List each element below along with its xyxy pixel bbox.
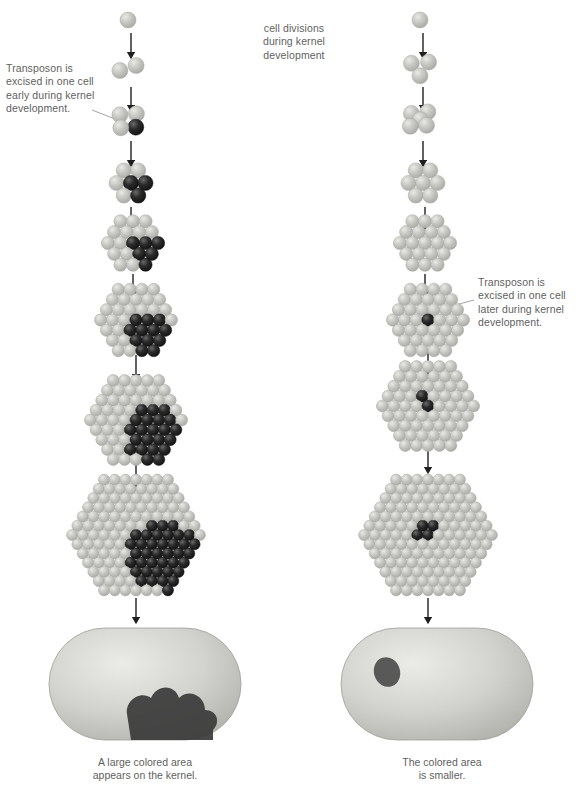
cell-cluster-stage-5 [101, 215, 164, 272]
annotation-right-transposon-late: Transposon is excised in one cell later … [478, 276, 588, 330]
cell-cluster-stage-7 [84, 375, 187, 466]
kernel-right [341, 628, 533, 740]
cell-cluster-stage-3 [402, 104, 435, 134]
cell-cluster-stage-1 [412, 12, 428, 28]
cell-cluster-stage-6 [94, 283, 177, 357]
kernel-left [49, 628, 241, 740]
column-right [341, 12, 533, 740]
column-left [49, 12, 241, 740]
center-heading: cell divisions during kernel development [234, 22, 354, 62]
cell-cluster-stage-8 [67, 474, 206, 596]
cell-art-layer [0, 0, 588, 796]
caption-right-kernel: The colored area is smaller. [312, 756, 572, 783]
annotation-left-transposon-early: Transposon is excised in one cell early … [6, 62, 126, 116]
cell-cluster-stage-1 [120, 12, 136, 28]
cell-cluster-stage-5 [393, 215, 456, 272]
caption-left-kernel: A large colored area appears on the kern… [15, 756, 275, 783]
cell-cluster-stage-7 [376, 361, 479, 452]
cell-cluster-stage-8 [359, 474, 498, 596]
cell-cluster-stage-4 [109, 163, 153, 203]
figure-canvas: cell divisions during kernel development… [0, 0, 588, 796]
cell-cluster-stage-4 [401, 163, 445, 203]
cell-cluster-stage-2 [403, 54, 436, 84]
cell-cluster-stage-6 [386, 283, 469, 357]
